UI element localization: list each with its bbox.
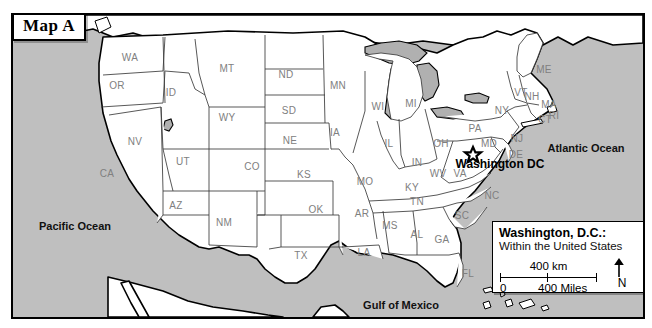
atlantic-ocean-label: Atlantic Ocean xyxy=(547,142,624,154)
state-label-NE: NE xyxy=(283,135,298,146)
scale-tick-end xyxy=(596,273,597,282)
state-label-IA: IA xyxy=(330,127,340,138)
state-label-SC: SC xyxy=(455,210,470,221)
scale-tick-start xyxy=(500,273,501,282)
state-label-IN: IN xyxy=(412,157,423,168)
state-label-ID: ID xyxy=(166,87,177,98)
state-label-MS: MS xyxy=(382,220,398,231)
state-label-RI: RI xyxy=(549,110,560,121)
state-label-TN: TN xyxy=(410,196,424,207)
state-label-MO: MO xyxy=(357,176,374,187)
state-label-WV: WV xyxy=(430,168,447,179)
map-figure: .land{fill:#ffffff;stroke:#000000;stroke… xyxy=(0,0,652,328)
scale-bar-graphic xyxy=(500,273,597,282)
state-label-OR: OR xyxy=(109,80,125,91)
state-label-KS: KS xyxy=(297,169,311,180)
state-label-MA: MA xyxy=(541,99,557,110)
state-label-AL: AL xyxy=(411,229,424,240)
capital-label: Washington DC xyxy=(456,157,545,171)
gulf-of-mexico-label: Gulf of Mexico xyxy=(363,299,439,311)
state-label-LA: LA xyxy=(358,247,371,258)
state-label-ND: ND xyxy=(278,69,293,80)
state-label-MN: MN xyxy=(330,80,346,91)
state-label-MD: MD xyxy=(481,138,497,149)
legend-subtitle: Within the United States xyxy=(499,240,638,254)
scale-zero-label: 0 xyxy=(500,282,506,295)
state-label-NY: NY xyxy=(495,105,510,116)
state-label-PA: PA xyxy=(468,123,481,134)
state-label-SD: SD xyxy=(282,105,297,116)
legend-title: Washington, D.C.: xyxy=(499,226,638,240)
state-label-NH: NH xyxy=(524,91,539,102)
state-label-WY: WY xyxy=(219,112,236,123)
scale-km-label: 400 km xyxy=(500,260,597,272)
state-label-OK: OK xyxy=(308,204,323,215)
north-letter-label: N xyxy=(611,278,633,289)
state-label-NV: NV xyxy=(128,136,143,147)
state-label-NM: NM xyxy=(216,217,232,228)
state-label-FL: FL xyxy=(462,268,474,279)
north-arrow-group: N xyxy=(611,258,633,289)
state-label-NJ: NJ xyxy=(511,133,524,144)
state-label-GA: GA xyxy=(434,234,449,245)
legend-box: Washington, D.C.: Within the United Stat… xyxy=(492,221,645,293)
map-tag-label: Map A xyxy=(12,13,86,41)
scale-bar-group: 400 km 0 400 Miles xyxy=(500,260,597,282)
state-label-AZ: AZ xyxy=(169,200,182,211)
state-label-UT: UT xyxy=(176,156,190,167)
state-label-CA: CA xyxy=(100,168,115,179)
state-label-ME: ME xyxy=(536,64,552,75)
pacific-ocean-label: Pacific Ocean xyxy=(39,220,111,232)
state-label-MI: MI xyxy=(405,98,417,109)
state-label-CO: CO xyxy=(244,161,260,172)
state-label-NC: NC xyxy=(484,190,499,201)
state-label-WI: WI xyxy=(372,101,385,112)
scale-tick-mid xyxy=(547,273,548,282)
state-label-KY: KY xyxy=(405,182,419,193)
state-label-AR: AR xyxy=(355,208,370,219)
state-label-IL: IL xyxy=(385,138,394,149)
scale-bar-rule xyxy=(500,277,597,278)
state-label-MT: MT xyxy=(219,63,234,74)
state-label-TX: TX xyxy=(294,250,307,261)
state-label-OH: OH xyxy=(433,138,449,149)
north-arrow-icon xyxy=(611,258,627,278)
state-label-WA: WA xyxy=(122,52,138,63)
map-frame: .land{fill:#ffffff;stroke:#000000;stroke… xyxy=(11,13,645,319)
scale-miles-label: 400 Miles xyxy=(538,282,587,295)
